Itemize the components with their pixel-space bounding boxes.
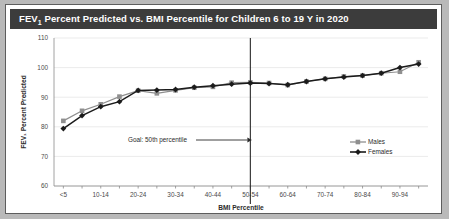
goal-annotation-label: Goal: 50th percentile	[128, 136, 187, 144]
x-tick-label: 30-34	[167, 191, 184, 198]
data-series-group	[60, 60, 421, 132]
x-axis-tick-labels: <510-1420-2430-3440-4450-5460-6470-7480-…	[60, 191, 409, 198]
x-axis-title: BMI Percentile	[218, 204, 264, 210]
x-tick-label: 70-74	[317, 191, 334, 198]
legend-marker-females	[355, 149, 361, 155]
legend-label-females: Females	[368, 148, 393, 155]
data-point	[61, 119, 66, 124]
y-tick-label: 80	[41, 123, 49, 130]
plot-area: 60708090100110 <510-1420-2430-3440-4450-…	[10, 30, 437, 210]
figure-card: FEV1 Percent Predicted vs. BMI Percentil…	[5, 4, 442, 214]
data-point	[117, 94, 122, 99]
y-tick-label: 100	[37, 64, 48, 71]
chart-title-prefix: FEV	[19, 13, 38, 24]
x-tick-label: 90-94	[392, 191, 409, 198]
chart-title-rest: Percent Predicted vs. BMI Percentile for…	[42, 13, 349, 24]
chart-title-bar: FEV1 Percent Predicted vs. BMI Percentil…	[10, 9, 437, 29]
y-axis-title: FEV₁ Percent Predicted	[20, 75, 27, 148]
data-point	[80, 109, 85, 114]
x-tick-label: 60-64	[280, 191, 297, 198]
chart-legend: MalesFemales	[350, 138, 393, 155]
goal-reference-line: Goal: 50th percentile	[128, 38, 252, 204]
y-tick-label: 90	[41, 94, 49, 101]
y-axis-tick-labels: 60708090100110	[37, 34, 48, 189]
x-tick-label: 20-24	[130, 191, 147, 198]
legend-marker-males	[356, 140, 361, 145]
x-tick-label: 10-14	[93, 191, 110, 198]
series-females	[60, 61, 421, 131]
y-tick-label: 60	[41, 182, 49, 189]
series-line	[63, 62, 418, 121]
line-chart: 60708090100110 <510-1420-2430-3440-4450-…	[10, 30, 437, 210]
series-males	[61, 60, 421, 123]
y-tick-label: 110	[38, 34, 49, 41]
x-tick-label: 80-84	[354, 191, 371, 198]
gridlines	[54, 38, 428, 186]
goal-arrow-head	[247, 137, 252, 142]
y-tick-label: 70	[41, 153, 49, 160]
x-tick-label: 40-44	[205, 191, 222, 198]
x-tick-label: <5	[60, 191, 68, 198]
legend-label-males: Males	[368, 138, 385, 145]
chart-title: FEV1 Percent Predicted vs. BMI Percentil…	[19, 13, 349, 26]
series-line	[63, 64, 418, 129]
